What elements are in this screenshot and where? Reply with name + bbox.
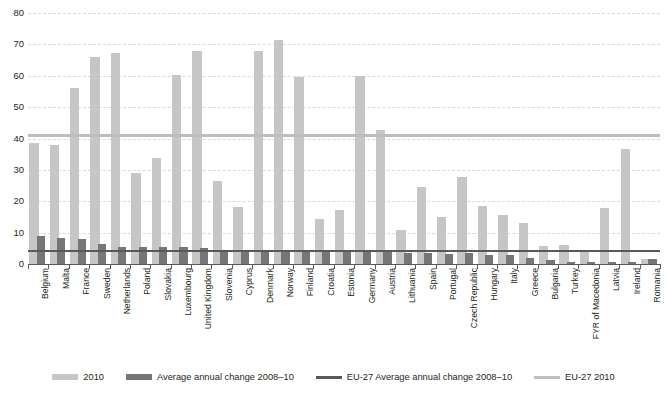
legend-item[interactable]: 2010 [52, 372, 104, 382]
y-tick-label: 10 [2, 228, 24, 238]
legend-label: EU-27 2010 [565, 372, 615, 382]
chart-legend: 2010Average annual change 2008–10EU-27 A… [0, 366, 667, 388]
x-category-label: Luxembourg [184, 268, 193, 316]
y-axis-labels: 01020304050607080 [0, 0, 24, 280]
y-tick-label: 60 [2, 71, 24, 81]
bar-avg-annual-change [322, 251, 330, 264]
x-category-label: Germany [368, 268, 377, 303]
x-category-label: Croatia [327, 268, 336, 296]
bar-avg-annual-change [241, 251, 249, 264]
x-category-label: Lithuania [408, 268, 417, 303]
x-category-label: Estonia [347, 268, 356, 297]
bar-avg-annual-change [302, 251, 310, 264]
legend-label: 2010 [83, 372, 104, 382]
legend-line-swatch [534, 376, 560, 379]
x-category-label: United Kingdom [204, 268, 213, 329]
bar-avg-annual-change [383, 251, 391, 264]
x-category-label: Poland [143, 268, 152, 295]
x-category-label: Czech Republic [470, 268, 479, 328]
reference-line-eu27-2010 [28, 134, 660, 136]
gridline [28, 107, 660, 108]
x-category-label: Slovenia [225, 268, 234, 301]
bar-2010 [294, 77, 303, 264]
bar-avg-annual-change [465, 253, 473, 264]
y-tick-label: 80 [2, 8, 24, 18]
bar-2010 [254, 51, 263, 264]
x-category-label: Portugal [449, 268, 458, 300]
x-category-label: Cyprus [245, 268, 254, 295]
x-category-label: Netherlands [123, 268, 132, 314]
y-tick-label: 0 [2, 259, 24, 269]
x-category-label: Finland [306, 268, 315, 296]
x-category-label: Bulgaria [551, 268, 560, 300]
y-tick-label: 40 [2, 134, 24, 144]
x-category-label: France [82, 268, 91, 295]
bar-avg-annual-change [261, 251, 269, 264]
bar-2010 [90, 57, 99, 264]
y-tick-label: 30 [2, 165, 24, 175]
bar-avg-annual-change [445, 254, 453, 264]
y-tick-label: 50 [2, 102, 24, 112]
plot-area [28, 13, 660, 264]
bar-2010 [70, 88, 79, 264]
x-category-label: Malta [62, 268, 71, 289]
x-category-label: Romania [653, 268, 662, 302]
x-category-label: Belgium [41, 268, 50, 299]
bar-2010 [621, 149, 630, 264]
gridline [28, 44, 660, 45]
bar-avg-annual-change [220, 251, 228, 264]
legend-label: Average annual change 2008–10 [157, 372, 294, 382]
x-category-label: Latvia [612, 268, 621, 291]
gridline [28, 76, 660, 77]
x-category-label: Sweden [103, 268, 112, 299]
legend-label: EU-27 Average annual change 2008–10 [347, 372, 512, 382]
bar-2010 [274, 40, 283, 264]
bar-avg-annual-change [485, 255, 493, 264]
bar-avg-annual-change [506, 255, 514, 264]
legend-item[interactable]: EU-27 Average annual change 2008–10 [316, 372, 512, 382]
x-category-label: Slovakia [164, 268, 173, 300]
x-category-label: Spain [429, 268, 438, 290]
bar-2010 [355, 76, 364, 264]
gridline [28, 13, 660, 14]
legend-line-swatch [316, 376, 342, 379]
chart-container: 01020304050607080 BelgiumMaltaFranceSwed… [0, 0, 667, 393]
x-category-label: Hungary [490, 268, 499, 300]
x-category-label: Austria [388, 268, 397, 295]
gridline [28, 201, 660, 202]
bar-2010 [111, 53, 120, 264]
bar-avg-annual-change [98, 244, 106, 264]
x-axis-line [28, 264, 660, 265]
bar-2010 [192, 51, 201, 264]
x-category-label: Turkey [571, 268, 580, 294]
bar-avg-annual-change [424, 253, 432, 264]
y-tick-label: 70 [2, 39, 24, 49]
x-category-label: Denmark [266, 268, 275, 303]
x-category-label: Italy [510, 268, 519, 284]
gridline [28, 170, 660, 171]
x-category-label: Ireland [633, 268, 642, 294]
x-category-label: Greece [531, 268, 540, 296]
bar-avg-annual-change [363, 250, 371, 264]
x-category-label: FYR of Macedonia [592, 268, 601, 339]
bar-2010 [172, 75, 181, 264]
bar-avg-annual-change [404, 253, 412, 264]
legend-bar-swatch [126, 374, 152, 380]
x-category-label: Norway [286, 268, 295, 297]
legend-item[interactable]: EU-27 2010 [534, 372, 615, 382]
legend-bar-swatch [52, 374, 78, 380]
gridline [28, 139, 660, 140]
x-axis-category-labels: BelgiumMaltaFranceSwedenNetherlandsPolan… [28, 268, 660, 358]
y-tick-label: 20 [2, 196, 24, 206]
bar-2010 [376, 130, 385, 264]
bar-2010 [600, 208, 609, 264]
bar-avg-annual-change [343, 250, 351, 264]
legend-item[interactable]: Average annual change 2008–10 [126, 372, 294, 382]
reference-line-eu27-change [28, 250, 660, 252]
